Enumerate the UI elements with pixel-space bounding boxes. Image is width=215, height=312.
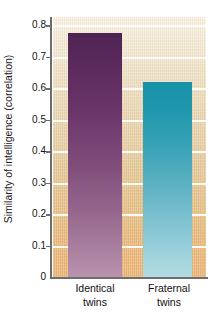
y-axis-tick-labels: 0 0.1 0.2 0.3 0.4 0.5 0.6 0.7 0.8 — [16, 0, 46, 312]
bar-chart: Similarity of intelligence (correlation)… — [0, 0, 215, 312]
x-tick-label-identical-twins: Identical twins — [57, 281, 133, 309]
y-tick-label-7: 0.7 — [16, 52, 46, 62]
bar-identical-twins[interactable] — [68, 33, 122, 277]
x-tick-label-fraternal-line1: Fraternal — [148, 282, 190, 294]
y-tick-mark-0.3 — [46, 183, 51, 185]
bar-fraternal-twins[interactable] — [143, 82, 192, 277]
y-tick-label-8: 0.8 — [16, 20, 46, 30]
y-tick-label-4: 0.4 — [16, 146, 46, 156]
x-axis-line — [50, 277, 208, 279]
x-tick-label-identical-line2: twins — [57, 295, 133, 309]
y-tick-label-6: 0.6 — [16, 83, 46, 93]
y-tick-label-5: 0.5 — [16, 115, 46, 125]
y-tick-mark-0.4 — [46, 151, 51, 153]
x-tick-label-fraternal-twins: Fraternal twins — [131, 281, 207, 309]
x-tick-label-identical-line1: Identical — [75, 282, 114, 294]
y-tick-mark-0.7 — [46, 57, 51, 59]
y-tick-mark-0.1 — [46, 246, 51, 248]
y-tick-mark-0.5 — [46, 120, 51, 122]
plot-area — [53, 17, 206, 277]
y-axis-title: Similarity of intelligence (correlation) — [0, 0, 16, 277]
y-tick-mark-0.6 — [46, 88, 51, 90]
y-axis-title-text: Similarity of intelligence (correlation) — [2, 54, 14, 223]
x-tick-label-fraternal-line2: twins — [131, 295, 207, 309]
gridline-0.8 — [53, 25, 206, 27]
x-axis-tick-labels: Identical twins Fraternal twins — [53, 281, 206, 312]
y-tick-label-0: 0 — [16, 272, 46, 282]
y-tick-mark-0.2 — [46, 214, 51, 216]
y-tick-label-2: 0.2 — [16, 209, 46, 219]
y-tick-label-3: 0.3 — [16, 178, 46, 188]
y-tick-mark-0.8 — [46, 25, 51, 27]
y-tick-label-1: 0.1 — [16, 241, 46, 251]
